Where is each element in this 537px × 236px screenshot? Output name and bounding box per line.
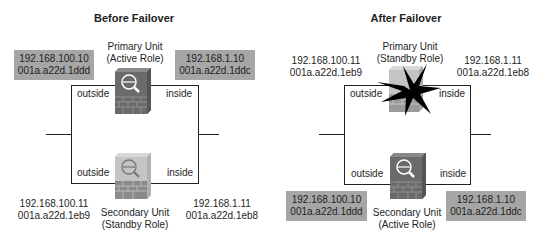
unit-role: (Active Role) [367,219,447,231]
ip-address: 192.168.1.11 [453,55,533,67]
inside-port-label: inside [167,167,193,179]
primary-outside-address: 192.168.100.11 001a.a22d.1eb9 [286,55,366,79]
panel-title: Before Failover [84,12,184,24]
firewall-active-icon [390,153,426,199]
firewall-standby-icon [115,153,151,199]
secondary-outside-address: 192.168.100.11 001a.a22d.1eb9 [14,198,94,222]
secondary-unit-label: Secondary Unit (Standby Role) [95,207,175,231]
mac-address: 001a.a22d.1eb9 [286,67,366,79]
inside-port-label: inside [166,88,192,100]
unit-role: (Standby Role) [95,219,175,231]
mac-address: 001a.a22d.1eb8 [453,67,533,79]
mac-address: 001a.a22d.1ddd [14,65,94,77]
primary-inside-address-box: 192.168.1.10 001a.a22d.1ddc [175,50,255,80]
secondary-outside-address-box: 192.168.100.10 001a.a22d.1ddd [286,191,367,221]
mac-address: 001a.a22d.1ddd [286,206,367,218]
mac-address: 001a.a22d.1ddc [175,65,255,77]
ip-address: 192.168.100.10 [14,53,94,65]
inside-network-stub [470,134,491,135]
failure-burst-icon [377,62,443,118]
ip-address: 192.168.1.10 [175,53,255,65]
panel-title: After Failover [356,12,456,24]
ip-address: 192.168.1.10 [446,194,526,206]
secondary-unit-label: Secondary Unit (Active Role) [367,207,447,231]
unit-name: Primary Unit [370,41,450,53]
outside-port-label: outside [351,168,383,180]
unit-name: Secondary Unit [95,207,175,219]
firewall-active-icon [115,68,151,114]
outside-network-stub [46,134,72,135]
secondary-inside-address: 192.168.1.11 001a.a22d.1eb8 [182,198,262,222]
outside-port-label: outside [77,167,109,179]
ip-address: 192.168.100.10 [286,194,367,206]
inside-port-label: inside [440,168,466,180]
outside-port-label: outside [77,88,109,100]
mac-address: 001a.a22d.1eb9 [14,210,94,222]
primary-unit-label: Primary Unit (Active Role) [95,41,175,65]
mac-address: 001a.a22d.1ddc [446,206,526,218]
unit-name: Secondary Unit [367,207,447,219]
outside-network-stub [319,134,345,135]
ip-address: 192.168.100.11 [286,55,366,67]
inside-network-stub [198,134,219,135]
unit-role: (Active Role) [95,53,175,65]
ip-address: 192.168.1.11 [182,198,262,210]
secondary-inside-address-box: 192.168.1.10 001a.a22d.1ddc [446,191,526,221]
ip-address: 192.168.100.11 [14,198,94,210]
primary-inside-address: 192.168.1.11 001a.a22d.1eb8 [453,55,533,79]
unit-name: Primary Unit [95,41,175,53]
mac-address: 001a.a22d.1eb8 [182,210,262,222]
primary-outside-address-box: 192.168.100.10 001a.a22d.1ddd [14,50,94,80]
